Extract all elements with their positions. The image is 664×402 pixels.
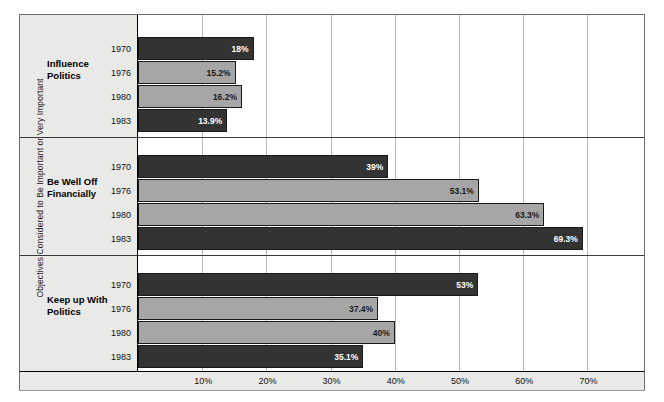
series-year-label: 1983	[91, 116, 131, 126]
series-year-label: 1970	[91, 162, 131, 172]
series-year-label: 1980	[91, 210, 131, 220]
bar-value-label: 13.9%	[198, 116, 222, 126]
bar-value-label: 63.3%	[515, 210, 539, 220]
x-axis-tick-label: 30%	[312, 376, 352, 386]
chart-frame: Objectives Considered to Be Important or…	[19, 14, 645, 388]
series-year-label: 1983	[91, 234, 131, 244]
y-axis-title: Objectives Considered to Be Important or…	[35, 23, 45, 353]
bar-value-label: 39%	[366, 162, 383, 172]
bar-value-label: 53.1%	[450, 186, 474, 196]
bar-value-label: 16.2%	[213, 92, 237, 102]
x-axis-tick-label: 70%	[568, 376, 608, 386]
axis-label-gutter: Objectives Considered to Be Important or…	[20, 15, 138, 387]
x-axis-tick-label: 10%	[183, 376, 223, 386]
gridline-x	[523, 15, 524, 387]
bar: 53%	[138, 273, 478, 296]
bar-value-label: 40%	[373, 328, 390, 338]
plot-area: 18%15.2%16.2%13.9%39%53.1%63.3%69.3%53%3…	[138, 15, 644, 387]
bar-value-label: 53%	[456, 280, 473, 290]
series-year-label: 1976	[91, 304, 131, 314]
group-separator	[20, 137, 644, 138]
bar: 18%	[138, 37, 254, 60]
series-year-label: 1970	[91, 280, 131, 290]
x-axis-tick-label: 50%	[440, 376, 480, 386]
bar: 16.2%	[138, 85, 242, 108]
bar: 40%	[138, 321, 395, 344]
series-year-label: 1976	[91, 68, 131, 78]
series-year-label: 1970	[91, 44, 131, 54]
gridline-x	[587, 15, 588, 387]
bar: 13.9%	[138, 109, 227, 132]
x-axis-strip: 10%20%30%40%50%60%70%	[19, 371, 645, 391]
bar-value-label: 69.3%	[554, 234, 578, 244]
bar: 35.1%	[138, 345, 363, 368]
bar: 63.3%	[138, 203, 544, 226]
bar: 39%	[138, 155, 388, 178]
group-separator	[20, 255, 644, 256]
x-axis-tick-label: 60%	[504, 376, 544, 386]
series-year-label: 1980	[91, 328, 131, 338]
bar: 53.1%	[138, 179, 479, 202]
bar-value-label: 18%	[232, 44, 249, 54]
bar: 15.2%	[138, 61, 236, 84]
bar-value-label: 37.4%	[349, 304, 373, 314]
bar-chart: Objectives Considered to Be Important or…	[0, 0, 664, 402]
x-axis-tick-label: 40%	[376, 376, 416, 386]
bar-value-label: 15.2%	[206, 68, 230, 78]
bar: 69.3%	[138, 227, 583, 250]
series-year-label: 1980	[91, 92, 131, 102]
series-year-label: 1976	[91, 186, 131, 196]
bar: 37.4%	[138, 297, 378, 320]
x-axis-tick-label: 20%	[247, 376, 287, 386]
bar-value-label: 35.1%	[334, 352, 358, 362]
series-year-label: 1983	[91, 352, 131, 362]
